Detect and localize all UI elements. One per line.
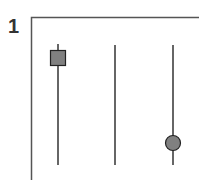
circle-marker[interactable] — [166, 136, 181, 151]
slider-diagram — [0, 0, 199, 180]
square-marker[interactable] — [51, 51, 66, 66]
